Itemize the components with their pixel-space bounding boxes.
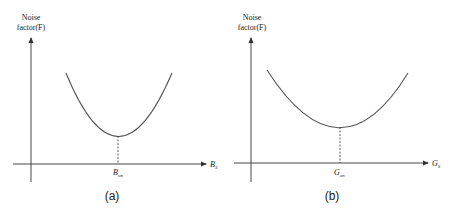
y-axis-label-line1: Noise bbox=[22, 13, 41, 22]
x-axis-label: GS bbox=[432, 159, 441, 169]
caption-b: (b) bbox=[325, 189, 340, 203]
x-axis-label: BS bbox=[210, 160, 218, 170]
optimum-label: Gon bbox=[334, 168, 345, 178]
caption-a: (a) bbox=[105, 189, 120, 203]
panel-b: Noise factor(F) Gon GS (b) bbox=[234, 13, 441, 203]
noise-factor-curve bbox=[267, 70, 408, 128]
y-axis-label-line2: factor(F) bbox=[238, 23, 267, 32]
y-axis-label-line1: Noise bbox=[243, 13, 262, 22]
noise-factor-curve bbox=[66, 73, 172, 137]
noise-factor-figure: Noise factor(F) Bon BS (a) Noise factor(… bbox=[0, 0, 451, 216]
y-axis-label-line2: factor(F) bbox=[17, 23, 46, 32]
optimum-label: Bon bbox=[113, 168, 123, 178]
panel-a: Noise factor(F) Bon BS (a) bbox=[13, 13, 218, 203]
